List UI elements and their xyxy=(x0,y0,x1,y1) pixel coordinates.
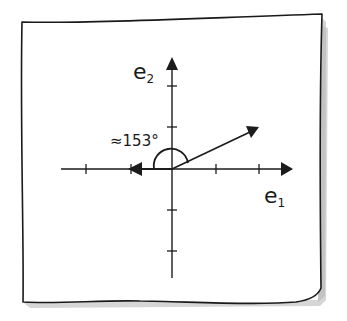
diagram-canvas: ≈153° e2 e1 xyxy=(0,0,347,321)
angle-label: ≈153° xyxy=(110,132,159,150)
